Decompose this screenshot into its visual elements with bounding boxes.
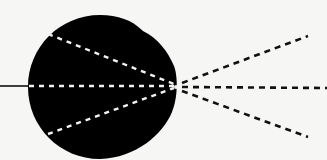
eye-optics-diagram: [0, 0, 327, 160]
focal-point: [174, 85, 178, 89]
